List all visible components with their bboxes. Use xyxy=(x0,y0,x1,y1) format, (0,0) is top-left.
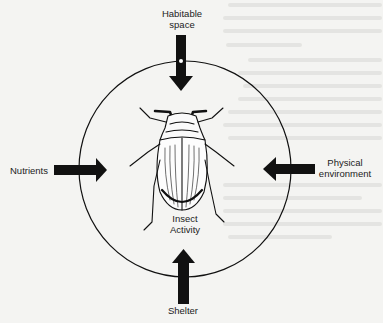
label-line: Insect xyxy=(160,213,210,224)
beetle-icon xyxy=(130,108,234,230)
label-line: environment xyxy=(312,168,378,179)
arrow-left-icon xyxy=(263,157,315,181)
label-physical-environment: Physical environment xyxy=(312,157,378,179)
arrow-down-icon xyxy=(169,35,193,91)
label-line: Shelter xyxy=(158,305,208,316)
label-line: Activity xyxy=(160,224,210,235)
label-nutrients: Nutrients xyxy=(4,165,54,176)
label-line: Nutrients xyxy=(4,165,54,176)
label-shelter: Shelter xyxy=(158,305,208,316)
label-line: Physical xyxy=(312,157,378,168)
label-insect-activity: Insect Activity xyxy=(160,213,210,235)
label-line: space xyxy=(150,19,214,30)
arrow-right-icon xyxy=(54,158,107,182)
label-line: Habitable xyxy=(150,8,214,19)
label-habitable-space: Habitable space xyxy=(150,8,214,30)
